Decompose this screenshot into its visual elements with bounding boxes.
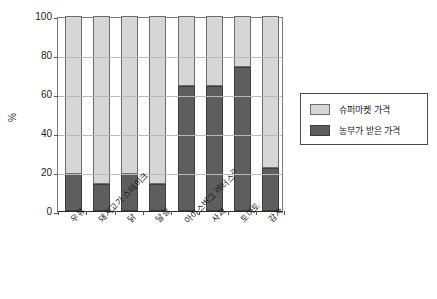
x-tick-label: 사과 [210,207,227,224]
x-tick-label: 돼지고기 스테이크 [97,171,150,224]
x-tick-label: 감자 [267,207,284,224]
legend-swatch-icon [310,104,330,115]
x-axis-tick-labels: 우유돼지고기 스테이크닭달걀아이스버그 레터스2)사과토마토감자 [0,0,437,299]
legend-label: 농부가 받은 가격 [339,124,400,137]
legend-label: 슈퍼마켓 가격 [339,103,390,116]
legend-swatch-icon [310,125,330,136]
legend-item[interactable]: 슈퍼마켓 가격 [310,103,390,116]
stacked-bar-chart: % 020406080100 우유돼지고기 스테이크닭달걀아이스버그 레터스2)… [0,0,437,299]
x-tick-label: 우유 [69,207,86,224]
x-tick-label: 닭 [126,212,138,224]
x-tick-label: 토마토 [239,201,262,224]
legend-item[interactable]: 농부가 받은 가격 [310,124,400,137]
chart-legend: 슈퍼마켓 가격농부가 받은 가격 [300,93,428,145]
x-tick-label: 달걀 [154,207,171,224]
